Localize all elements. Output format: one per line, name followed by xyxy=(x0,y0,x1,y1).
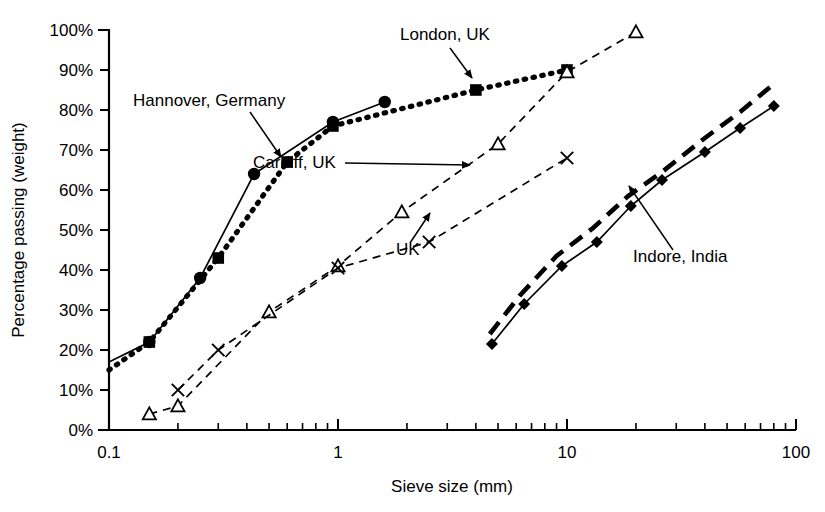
x-tick-label: 0.1 xyxy=(97,443,121,462)
marker-filled-square xyxy=(470,84,482,96)
series-label: Hannover, Germany xyxy=(133,91,286,110)
y-tick-label: 10% xyxy=(59,381,93,400)
series-label: Indore, India xyxy=(633,247,728,266)
chart-container: 0%10%20%30%40%50%60%70%80%90%100% 0.1110… xyxy=(0,0,825,512)
y-tick-label: 60% xyxy=(59,181,93,200)
y-tick-label: 90% xyxy=(59,61,93,80)
x-tick-label: 1 xyxy=(333,443,342,462)
marker-filled-square xyxy=(327,120,339,132)
y-tick-label: 70% xyxy=(59,141,93,160)
marker-filled-circle xyxy=(379,96,391,108)
sieve-analysis-chart: 0%10%20%30%40%50%60%70%80%90%100% 0.1110… xyxy=(0,0,825,512)
y-tick-label: 0% xyxy=(68,421,93,440)
y-tick-label: 30% xyxy=(59,301,93,320)
y-tick-label: 80% xyxy=(59,101,93,120)
x-tick-label: 10 xyxy=(558,443,577,462)
x-axis-label: Sieve size (mm) xyxy=(391,477,513,496)
series-label: UK xyxy=(396,240,420,259)
series-label: Cardiff, UK xyxy=(253,153,336,172)
y-tick-label: 20% xyxy=(59,341,93,360)
marker-filled-square xyxy=(212,252,224,264)
y-tick-label: 50% xyxy=(59,221,93,240)
series-label: London, UK xyxy=(400,25,490,44)
y-tick-label: 40% xyxy=(59,261,93,280)
y-tick-label: 100% xyxy=(50,21,93,40)
y-axis-label: Percentage passing (weight) xyxy=(9,122,28,337)
x-tick-label: 100 xyxy=(782,443,810,462)
marker-filled-square xyxy=(144,336,156,348)
